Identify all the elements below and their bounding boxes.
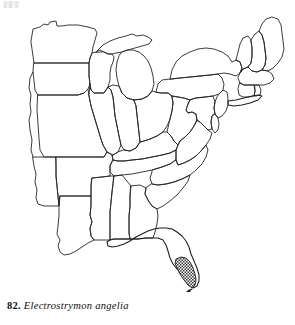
caption-number: 82.: [7, 300, 21, 311]
state-outline-new-hampshire: [248, 31, 266, 72]
state-outline-virginia: [176, 120, 212, 165]
state-outline-west-virginia: [167, 96, 197, 145]
state-outline-arkansas: [56, 152, 113, 206]
state-outline-north-carolina: [150, 145, 208, 185]
state-outline-oklahoma-crop: [33, 157, 59, 206]
state-outline-connecticut: [238, 83, 255, 97]
state-outline-missouri: [37, 89, 107, 157]
state-outline-illinois: [89, 84, 121, 155]
state-outline-ohio: [134, 91, 173, 142]
state-outline-iowa: [33, 63, 90, 95]
state-outline-indiana: [108, 85, 140, 151]
state-outline-new-jersey: [214, 90, 228, 118]
range-shading-south-florida: [175, 257, 196, 288]
state-outline-mississippi: [90, 176, 114, 240]
state-outline-maine: [259, 17, 284, 71]
state-outline-plains-crop: [29, 72, 33, 157]
state-outline-pennsylvania: [156, 74, 224, 100]
figure-caption: 82.Electrostrymon angelia: [7, 299, 287, 312]
state-outline-louisiana: [57, 196, 94, 255]
state-outline-south-carolina: [145, 175, 190, 209]
distribution-map: [0, 0, 295, 292]
state-outline-tennessee: [110, 150, 176, 176]
state-outline-georgia: [129, 185, 158, 239]
state-outline-minnesota: [31, 21, 97, 63]
state-outline-rhode-island: [254, 85, 261, 96]
map-svg: [0, 0, 295, 292]
state-outline-vermont: [236, 36, 252, 73]
state-outline-maryland: [186, 96, 215, 130]
state-outline-massachusetts: [238, 67, 274, 85]
caption-species-name: Electrostrymon angelia: [24, 300, 129, 311]
state-outline-new-york: [170, 48, 242, 79]
figure-plate: 82.Electrostrymon angelia: [0, 0, 295, 325]
